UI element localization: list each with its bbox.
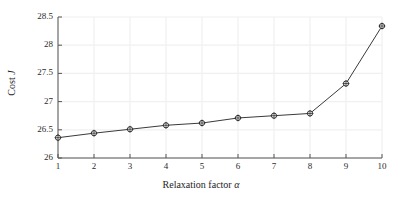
x-axis-title: Relaxation factor α — [0, 180, 402, 190]
x-tick-label: 8 — [295, 162, 325, 171]
x-tick-label: 9 — [331, 162, 361, 171]
x-tick-label: 3 — [115, 162, 145, 171]
x-axis-title-text: Relaxation factor — [163, 179, 235, 190]
axis-lines — [58, 17, 382, 158]
y-tick-label: 26 — [44, 153, 53, 162]
x-tick-label: 5 — [187, 162, 217, 171]
y-tick-label: 28.5 — [37, 12, 53, 21]
x-tick-label: 10 — [367, 162, 397, 171]
y-tick-label: 27 — [44, 97, 53, 106]
y-tick-label: 26.5 — [37, 125, 53, 134]
x-tick-label: 4 — [151, 162, 181, 171]
x-tick-label: 7 — [259, 162, 289, 171]
chart-figure: 2626.52727.52828.5 12345678910 Relaxatio… — [0, 0, 402, 198]
x-tick-label: 1 — [43, 162, 73, 171]
y-axis-title-text: Cost — [6, 75, 17, 96]
x-tick-label: 2 — [79, 162, 109, 171]
y-tick-label: 27.5 — [37, 68, 53, 77]
x-axis-title-symbol: α — [234, 179, 239, 190]
y-tick-label: 28 — [44, 40, 53, 49]
y-axis-title: Cost J — [7, 53, 17, 113]
data-series-line — [58, 26, 382, 138]
y-axis-title-symbol: J — [6, 70, 17, 74]
gridlines — [58, 17, 382, 158]
axis-ticks — [58, 17, 382, 158]
x-tick-label: 6 — [223, 162, 253, 171]
data-series-markers — [55, 23, 386, 141]
